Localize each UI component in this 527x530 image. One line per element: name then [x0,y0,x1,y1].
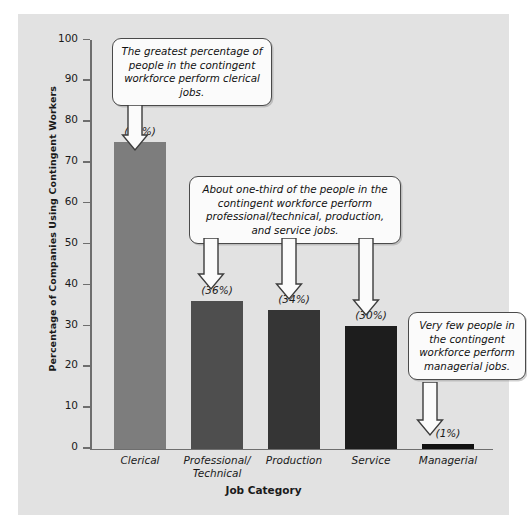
y-tick-label-10: 10 [48,399,78,411]
x-category-label-professional-technical-line2: Technical [181,467,253,480]
bar-value-professional-technical: (36%) [201,284,233,296]
bar-value-service: (30%) [355,309,387,321]
plot-area: 0 10 20 30 40 50 60 70 80 90 100 (75%) (… [90,40,493,450]
bar-managerial[interactable]: (1%) [422,444,474,449]
y-tick-30: 30 [83,325,90,327]
y-tick-50: 50 [83,243,90,245]
x-category-label-production: Production [258,454,330,467]
bar-production[interactable]: (34%) [268,310,320,449]
y-tick-70: 70 [83,161,90,163]
x-category-label-managerial: Managerial [412,454,484,467]
y-tick-label-60: 60 [48,195,78,207]
x-category-label-production-line1: Production [258,454,330,467]
x-axis-title: Job Category [18,484,509,496]
y-axis-title: Percentage of Companies Using Contingent… [47,92,58,372]
y-tick-label-80: 80 [48,113,78,125]
y-tick-label-50: 50 [48,236,78,248]
bar-service[interactable]: (30%) [345,326,397,449]
x-category-label-professional-technical: Professional/ Technical [181,454,253,480]
y-tick-label-90: 90 [48,72,78,84]
y-tick-label-20: 20 [48,358,78,370]
y-tick-10: 10 [83,406,90,408]
x-category-label-professional-technical-line1: Professional/ [181,454,253,467]
x-axis-line [90,449,493,451]
chart-figure: Percentage of Companies Using Contingent… [18,14,509,515]
y-tick-80: 80 [83,120,90,122]
callout-mid-categories: About one-third of the people in the con… [189,176,401,244]
x-category-label-service-line1: Service [335,454,407,467]
y-tick-90: 90 [83,79,90,81]
y-tick-20: 20 [83,365,90,367]
y-tick-0: 0 [83,447,90,449]
y-tick-60: 60 [83,202,90,204]
bar-value-managerial: (1%) [436,427,461,439]
y-tick-100: 100 [83,39,90,41]
y-tick-40: 40 [83,284,90,286]
y-tick-label-40: 40 [48,277,78,289]
bar-clerical[interactable]: (75%) [114,142,166,448]
y-tick-label-30: 30 [48,318,78,330]
bar-value-clerical: (75%) [124,125,156,137]
callout-mid-arrow-service [352,238,388,320]
x-category-label-service: Service [335,454,407,467]
x-category-label-managerial-line1: Managerial [412,454,484,467]
bar-professional-technical[interactable]: (36%) [191,301,243,448]
callout-clerical: The greatest percentage of people in the… [112,38,272,106]
callout-managerial: Very few people in the contingent workfo… [408,312,526,380]
y-tick-label-70: 70 [48,154,78,166]
y-tick-label-100: 100 [48,32,78,44]
y-tick-label-0: 0 [48,440,78,452]
x-category-label-clerical: Clerical [104,454,176,467]
bar-value-production: (34%) [278,293,310,305]
y-axis-line [90,40,92,450]
x-category-label-clerical-line1: Clerical [104,454,176,467]
